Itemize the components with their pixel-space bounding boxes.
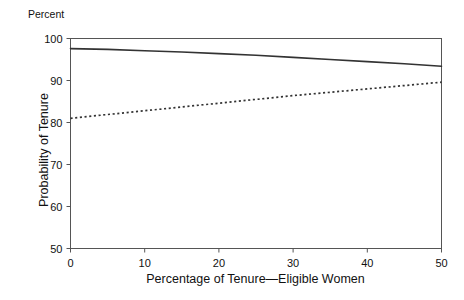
- axis-ticks: [67, 39, 442, 253]
- series-dotted-line: [71, 82, 442, 118]
- data-series-layer: [71, 49, 442, 119]
- chart-figure: Percent Probability of Tenure Percentage…: [0, 0, 464, 300]
- axis-frame: [71, 39, 442, 249]
- plot-frame-box: [71, 39, 442, 249]
- series-solid-line: [71, 49, 442, 67]
- plot-area: [0, 0, 464, 300]
